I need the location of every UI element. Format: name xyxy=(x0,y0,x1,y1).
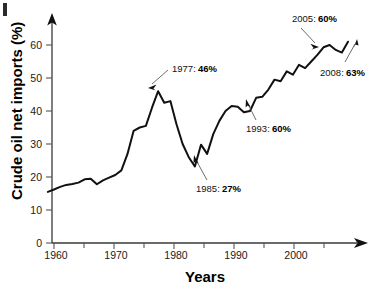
anno-1985-leader xyxy=(196,160,207,180)
y-tick-label-20: 20 xyxy=(30,171,42,183)
anno-1993-arrowhead xyxy=(246,99,251,107)
x-axis: 1960 1970 1980 1990 2000 Years xyxy=(44,238,368,285)
anno-2005-year: 2005: xyxy=(292,13,316,24)
y-tick-label-30: 30 xyxy=(30,138,42,150)
x-axis-title: Years xyxy=(185,268,225,285)
annotation-2008: 2008: 63% xyxy=(320,39,366,78)
anno-2008-leader xyxy=(345,44,355,62)
x-tick-label-1970: 1970 xyxy=(104,249,128,261)
anno-2008-arrowhead xyxy=(354,39,359,48)
y-tick-label-40: 40 xyxy=(30,105,42,117)
anno-2005-arrowhead xyxy=(310,44,319,50)
y-axis-title: Crude oil net imports (%) xyxy=(8,22,25,200)
annotation-1985: 1985: 27% xyxy=(193,155,241,194)
anno-2008-year: 2008: xyxy=(320,67,344,78)
anno-1993-year: 1993: xyxy=(246,123,270,134)
page-corner-mark xyxy=(3,3,7,16)
y-axis-tick-labels: 0 10 20 30 40 50 60 xyxy=(30,39,42,249)
chart-figure: 0 10 20 30 40 50 60 Crude oil net import… xyxy=(0,0,388,290)
anno-1977-leader xyxy=(152,70,168,84)
anno-1977-value: 46% xyxy=(198,63,218,74)
x-axis-tick-labels: 1960 1970 1980 1990 2000 xyxy=(44,249,308,261)
anno-2005-value: 60% xyxy=(318,13,338,24)
x-tick-label-1960: 1960 xyxy=(44,249,68,261)
annotation-2005: 2005: 60% xyxy=(292,13,338,50)
anno-1985-value: 27% xyxy=(222,183,242,194)
x-tick-label-2000: 2000 xyxy=(284,249,308,261)
anno-1993-value: 60% xyxy=(272,123,292,134)
y-axis-ticks xyxy=(46,45,52,243)
y-axis: 0 10 20 30 40 50 60 Crude oil net import… xyxy=(8,13,57,249)
x-tick-label-1980: 1980 xyxy=(164,249,188,261)
x-tick-label-1990: 1990 xyxy=(224,249,248,261)
anno-2008-value: 63% xyxy=(346,67,366,78)
y-tick-label-10: 10 xyxy=(30,204,42,216)
y-tick-label-50: 50 xyxy=(30,72,42,84)
line-chart-svg: 0 10 20 30 40 50 60 Crude oil net import… xyxy=(0,0,388,290)
anno-1977-arrowhead xyxy=(148,84,157,90)
anno-1985-year: 1985: xyxy=(196,183,220,194)
anno-2005-leader xyxy=(301,28,315,43)
y-tick-label-60: 60 xyxy=(30,39,42,51)
annotation-1977: 1977: 46% xyxy=(148,63,218,91)
anno-1977-year: 1977: xyxy=(172,63,196,74)
y-tick-label-0: 0 xyxy=(36,237,42,249)
